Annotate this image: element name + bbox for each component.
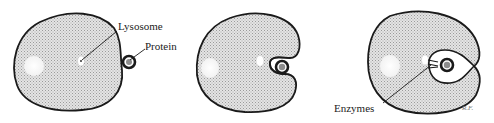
nucleus-vacuole	[201, 58, 219, 78]
protein-label: Protein	[145, 40, 177, 52]
nucleus-vacuole	[380, 55, 400, 77]
stage-2-cell	[197, 13, 300, 112]
protein-leader-line	[130, 49, 145, 60]
protein-particle	[276, 61, 288, 73]
phagocytosis-diagram: Lysosome Protein Enzymes R.F.	[0, 0, 494, 123]
stage-3-cell: Enzymes R.F.	[334, 11, 480, 114]
nucleus-vacuole	[24, 56, 44, 76]
enzymes-label: Enzymes	[334, 102, 374, 114]
lysosome	[257, 56, 264, 66]
lysosome-label: Lysosome	[118, 20, 163, 32]
lysosome-dot	[80, 60, 82, 62]
protein-particle	[441, 59, 453, 71]
lysosome	[422, 56, 428, 65]
stage-1-cell: Lysosome Protein	[14, 13, 177, 110]
artist-signature: R.F.	[461, 104, 473, 112]
